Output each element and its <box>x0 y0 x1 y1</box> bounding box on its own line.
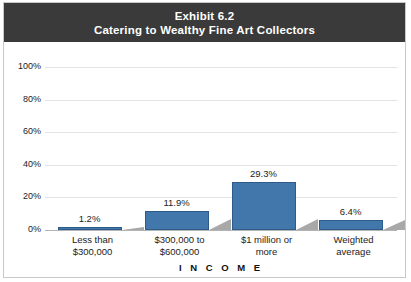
chart-title-banner: Exhibit 6.2 Catering to Wealthy Fine Art… <box>4 3 405 42</box>
category-label-line: average <box>310 246 397 258</box>
bar-shadow <box>209 219 231 230</box>
category-label-line: $300,000 <box>49 246 136 258</box>
exhibit-chart-container: Exhibit 6.2 Catering to Wealthy Fine Art… <box>0 0 411 282</box>
page-title: Catering to Wealthy Fine Art Collectors <box>94 23 315 37</box>
bar[interactable] <box>145 211 209 230</box>
bar-group[interactable] <box>319 220 383 230</box>
category-label-line: $600,000 <box>136 246 223 258</box>
bar-shadow <box>122 227 144 230</box>
x-axis-category-label: Less than$300,000 <box>49 234 136 257</box>
bar[interactable] <box>232 182 296 230</box>
bars-layer: 1.2%Less than$300,00011.9%$300,000 to$60… <box>4 42 405 277</box>
bar-value-label: 6.4% <box>319 206 383 217</box>
bar-value-label: 29.3% <box>232 168 296 179</box>
x-axis-category-label: $300,000 to$600,000 <box>136 234 223 257</box>
bar-shadow <box>383 220 405 230</box>
category-label-line: Less than <box>49 234 136 246</box>
bar-shadow <box>296 219 318 230</box>
category-label-line: more <box>223 246 310 258</box>
bar[interactable] <box>58 227 122 230</box>
x-axis-title: I N C O M E <box>45 262 397 273</box>
category-label-line: $1 million or <box>223 234 310 246</box>
exhibit-number: Exhibit 6.2 <box>175 9 235 23</box>
bar-value-label: 1.2% <box>58 213 122 224</box>
bar-value-label: 11.9% <box>145 197 209 208</box>
bar-group[interactable] <box>145 211 209 230</box>
bar[interactable] <box>319 220 383 230</box>
bar-group[interactable] <box>58 227 122 230</box>
category-label-line: $300,000 to <box>136 234 223 246</box>
category-label-line: Weighted <box>310 234 397 246</box>
plot-area: 0%20%40%60%80%100% 1.2%Less than$300,000… <box>4 42 405 277</box>
x-axis-category-label: Weightedaverage <box>310 234 397 257</box>
x-axis-category-label: $1 million ormore <box>223 234 310 257</box>
bar-group[interactable] <box>232 182 296 230</box>
